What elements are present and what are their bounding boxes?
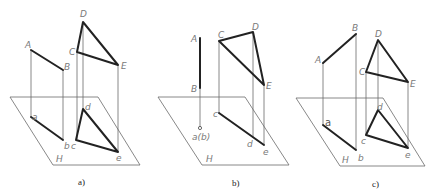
label-E: E <box>121 61 127 71</box>
label-e: e <box>116 153 122 163</box>
caption-a: a) <box>78 177 85 187</box>
panel-a: A B C D E a b c d e H a) <box>10 9 140 187</box>
label-b: b <box>64 141 70 151</box>
triangle-cde <box>366 40 408 82</box>
label-B: B <box>191 84 197 94</box>
caption-c: c) <box>372 179 379 189</box>
line-ab <box>31 50 63 70</box>
label-c: c <box>361 136 366 146</box>
line-ab <box>323 34 356 63</box>
label-a: a <box>32 112 38 122</box>
projection-diagram: A B C D E a b c d e H a) A B C D E c a(b… <box>0 0 432 196</box>
label-C: C <box>218 30 225 40</box>
triangle-cde <box>219 32 264 85</box>
panel-b: A B C D E c a(b) d e H b) <box>158 22 289 188</box>
label-plane-h: H <box>342 155 349 165</box>
caption-b: b) <box>232 178 240 188</box>
projection-cde <box>219 113 264 145</box>
projection-cde <box>76 109 118 152</box>
label-ab: a(b) <box>192 132 210 142</box>
label-e: e <box>263 147 269 157</box>
label-plane-h: H <box>56 154 63 164</box>
label-A: A <box>190 34 197 44</box>
point-ab <box>198 126 201 129</box>
label-D: D <box>80 9 87 19</box>
panel-c: A B C D E a b c d e H c) <box>296 23 425 189</box>
label-B: B <box>352 23 358 33</box>
label-b: b <box>358 153 364 163</box>
label-d: d <box>85 102 91 112</box>
label-plane-h: H <box>206 154 213 164</box>
plane-h <box>158 97 289 165</box>
label-E: E <box>266 81 272 91</box>
label-A: A <box>314 55 321 65</box>
label-B: B <box>64 62 70 72</box>
label-D: D <box>375 29 382 39</box>
label-a: a <box>325 117 331 128</box>
label-e: e <box>405 150 411 160</box>
label-d: d <box>247 139 253 149</box>
projection-ab <box>323 125 356 150</box>
label-C: C <box>359 67 366 77</box>
label-d: d <box>377 102 383 112</box>
label-E: E <box>410 79 416 89</box>
label-c: c <box>71 141 76 151</box>
label-C: C <box>69 47 76 57</box>
label-D: D <box>252 22 259 32</box>
label-A: A <box>24 40 31 50</box>
label-c: c <box>213 109 218 119</box>
